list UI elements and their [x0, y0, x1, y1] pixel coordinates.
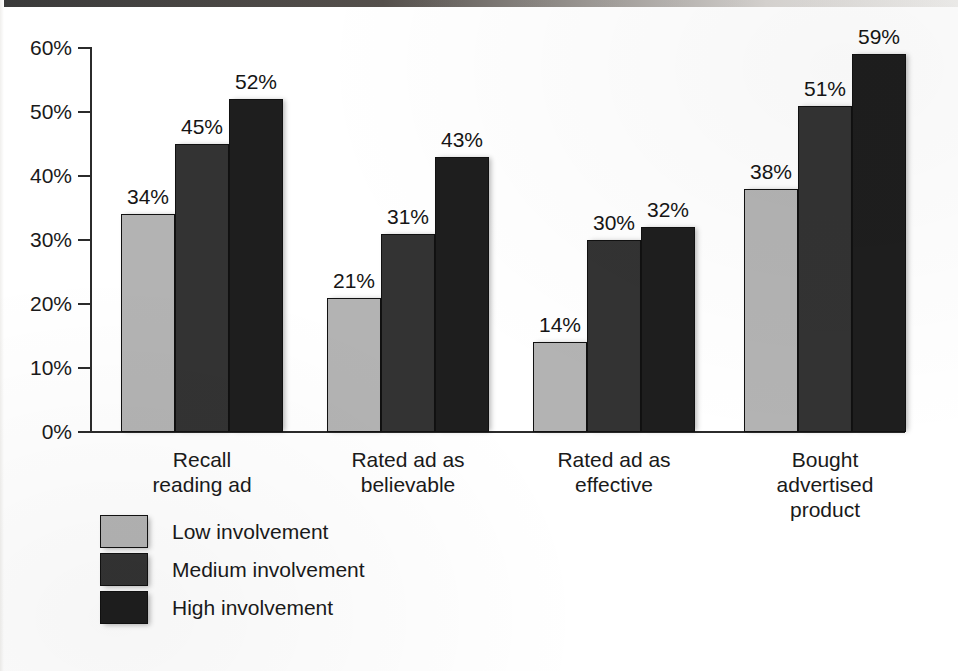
bar-high-0 [229, 99, 283, 432]
x-axis-category-label: Rated ad as believable [298, 447, 518, 497]
bar-value-label: 38% [738, 161, 804, 182]
bar-medium-2 [587, 240, 641, 432]
bar-chart: 60%50%40%30%20%10%0% 34%45%52%21%31%43%1… [0, 0, 958, 671]
legend-swatch-medium [100, 553, 148, 586]
y-axis-tick-label: 30% [0, 229, 72, 250]
bar-medium-3 [798, 106, 852, 432]
y-axis-tick [78, 303, 92, 305]
bar-low-0 [121, 214, 175, 432]
y-axis-tick [78, 239, 92, 241]
bar-high-1 [435, 157, 489, 432]
bar-high-3 [852, 54, 906, 432]
y-axis-tick-label: 40% [0, 165, 72, 186]
y-axis-tick [78, 367, 92, 369]
x-axis-category-label: Recall reading ad [92, 447, 312, 497]
legend-item-low[interactable]: Low involvement [100, 512, 365, 550]
legend-item-high[interactable]: High involvement [100, 588, 365, 626]
y-axis-tick [78, 47, 92, 49]
y-axis-tick-label: 20% [0, 293, 72, 314]
y-axis-tick-label: 0% [0, 421, 72, 442]
bar-medium-0 [175, 144, 229, 432]
legend-swatch-low [100, 515, 148, 548]
bar-value-label: 21% [321, 270, 387, 291]
bar-value-label: 14% [527, 314, 593, 335]
y-axis-tick-label: 60% [0, 37, 72, 58]
bar-low-1 [327, 298, 381, 432]
bar-value-label: 59% [846, 26, 912, 47]
y-axis-tick-label: 50% [0, 101, 72, 122]
bar-value-label: 43% [429, 129, 495, 150]
chart-legend: Low involvementMedium involvementHigh in… [100, 512, 365, 626]
bar-value-label: 51% [792, 78, 858, 99]
legend-swatch-high [100, 591, 148, 624]
y-axis-tick [78, 431, 92, 433]
legend-label-high: High involvement [172, 597, 333, 618]
bar-medium-1 [381, 234, 435, 432]
y-axis-tick [78, 175, 92, 177]
bar-value-label: 34% [115, 186, 181, 207]
bar-low-3 [744, 189, 798, 432]
legend-label-low: Low involvement [172, 521, 328, 542]
bar-value-label: 45% [169, 116, 235, 137]
bar-low-2 [533, 342, 587, 432]
bar-value-label: 52% [223, 71, 289, 92]
y-axis-tick-label: 10% [0, 357, 72, 378]
bar-value-label: 32% [635, 199, 701, 220]
bar-high-2 [641, 227, 695, 432]
y-axis-tick [78, 111, 92, 113]
x-axis-category-label: Bought advertised product [715, 447, 935, 522]
legend-item-medium[interactable]: Medium involvement [100, 550, 365, 588]
bar-value-label: 31% [375, 206, 441, 227]
x-axis-category-label: Rated ad as effective [504, 447, 724, 497]
legend-label-medium: Medium involvement [172, 559, 365, 580]
